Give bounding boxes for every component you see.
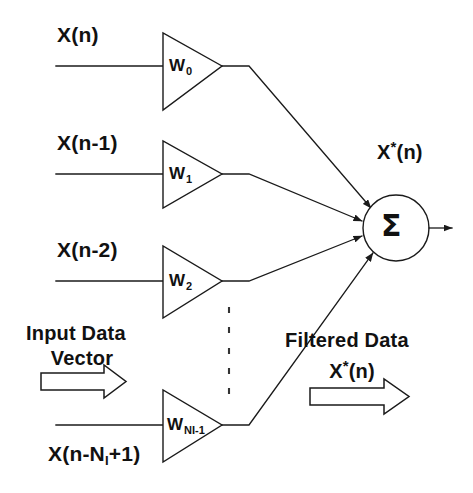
input-vector-label-line1: Input Data bbox=[26, 323, 126, 343]
tap-1-weight-symbol: W bbox=[169, 164, 185, 183]
filtered-data-block-arrow bbox=[310, 379, 409, 414]
tap-1-weight-label: W1 bbox=[169, 165, 191, 182]
adaptive-filter-diagram: X(n) X(n-1) X(n-2) X(n-NI+1) W0 W1 W2 WN… bbox=[0, 0, 473, 493]
tap-2-input-label: X(n-2) bbox=[57, 239, 118, 260]
input-data-block-arrow bbox=[41, 365, 126, 398]
input-vector-label-line2: Vector bbox=[26, 348, 138, 368]
tap-1-connection bbox=[222, 174, 362, 221]
tap-0-weight-label: W0 bbox=[169, 57, 191, 74]
tap-last-weight-symbol: W bbox=[167, 415, 183, 434]
tap-1-input-label: X(n-1) bbox=[57, 132, 118, 153]
tap-2-connection bbox=[222, 236, 362, 281]
summation-output-prefix: X bbox=[377, 141, 391, 163]
tap-last-input-label-suffix: +1) bbox=[109, 442, 141, 465]
summation-output-suffix: (n) bbox=[397, 141, 423, 163]
tap-last-input-label: X(n-NI+1) bbox=[48, 443, 140, 464]
tap-last-input-label-prefix: X(n-N bbox=[48, 442, 105, 465]
filtered-data-signal-star: * bbox=[343, 357, 349, 374]
tap-1-weight-subscript: 1 bbox=[186, 173, 192, 185]
summation-output-label: X*(n) bbox=[377, 138, 423, 162]
tap-0-weight-symbol: W bbox=[169, 56, 185, 75]
tap-0-connection bbox=[222, 66, 371, 208]
filtered-data-signal-suffix: (n) bbox=[349, 360, 375, 382]
tap-last-weight-label: WNI-1 bbox=[167, 416, 204, 433]
filtered-data-signal-label: X*(n) bbox=[285, 357, 419, 381]
tap-0-input-label: X(n) bbox=[57, 24, 99, 45]
tap-last-weight-subscript: NI-1 bbox=[184, 424, 205, 436]
tap-2-weight-subscript: 2 bbox=[186, 280, 192, 292]
summation-output-star: * bbox=[391, 138, 397, 155]
filtered-data-label: Filtered Data bbox=[285, 330, 409, 350]
summation-symbol: Σ bbox=[381, 211, 402, 241]
tap-0-weight-subscript: 0 bbox=[186, 65, 192, 77]
tap-2-weight-symbol: W bbox=[169, 271, 185, 290]
filtered-data-signal-prefix: X bbox=[329, 360, 343, 382]
tap-last-input-label-subscript: I bbox=[105, 453, 109, 468]
tap-2-weight-label: W2 bbox=[169, 272, 191, 289]
